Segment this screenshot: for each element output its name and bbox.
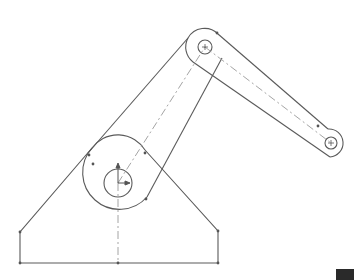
sketch-point[interactable]	[217, 262, 220, 265]
sketch-point[interactable]	[19, 231, 22, 234]
elbow-outer-arc[interactable]	[188, 28, 218, 38]
corner-indicator	[336, 269, 354, 280]
sketch-point[interactable]	[117, 262, 120, 265]
upper-link-bottom-edge[interactable]	[193, 62, 330, 157]
sketch-point[interactable]	[144, 152, 147, 155]
sketch-point[interactable]	[317, 125, 320, 128]
upper-link-centerline	[205, 47, 331, 143]
upper-link-top-edge[interactable]	[218, 34, 328, 129]
sketch-point[interactable]	[145, 198, 148, 201]
base-pivot-outer-arc[interactable]	[83, 148, 147, 209]
cad-sketch-canvas[interactable]	[0, 0, 354, 280]
sketch-point[interactable]	[216, 32, 219, 35]
sketch-point[interactable]	[19, 262, 22, 265]
base-pivot-outer-arc-top[interactable]	[92, 135, 145, 150]
lower-link-centerline	[118, 47, 205, 183]
sketch-point[interactable]	[92, 163, 95, 166]
sketch-point[interactable]	[217, 230, 220, 233]
lower-link-left-edge[interactable]	[88, 38, 188, 153]
sketch-point[interactable]	[88, 154, 91, 157]
elbow-outer-arc-left[interactable]	[186, 38, 193, 62]
